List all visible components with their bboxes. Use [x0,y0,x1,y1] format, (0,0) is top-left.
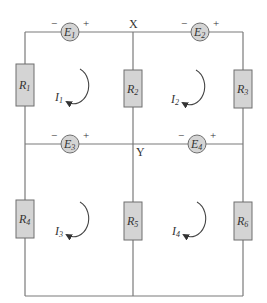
resistor-r1: R1 [16,64,34,106]
resistor-r4: R4 [16,200,34,238]
source-e4: − E4 + [178,129,216,153]
i4-label: I4 [171,224,180,239]
e1-positive-sign: + [83,17,89,29]
loop-current-i3: I3 [54,202,89,239]
clockwise-arrow-icon [67,69,89,104]
resistor-r2: R2 [124,70,142,107]
loop-current-i4: I4 [171,202,206,239]
e4-positive-sign: + [210,129,216,141]
resistor-r3: R3 [234,70,252,108]
i2-label: I2 [170,92,179,107]
node-y-label: Y [136,145,145,159]
resistor-r5: R5 [124,202,142,240]
circuit-diagram: X Y − E1 + − E2 + − E3 + − E4 + R1 R2 R3 [0,0,267,303]
source-e3: − E3 + [51,129,89,153]
source-e2: − E2 + [181,17,219,41]
e2-positive-sign: + [213,17,219,29]
resistor-r6: R6 [234,202,252,240]
e2-negative-sign: − [181,17,187,29]
e1-negative-sign: − [51,17,57,29]
source-e1: − E1 + [51,17,89,41]
e3-positive-sign: + [83,129,89,141]
e4-negative-sign: − [178,129,184,141]
i3-label: I3 [54,224,63,239]
loop-current-i2: I2 [170,70,205,107]
node-x-label: X [129,17,138,31]
clockwise-arrow-icon [67,202,89,237]
clockwise-arrow-icon [183,70,205,105]
i1-label: I1 [54,90,63,105]
clockwise-arrow-icon [184,202,206,237]
loop-current-i1: I1 [54,69,89,105]
e3-negative-sign: − [51,129,57,141]
